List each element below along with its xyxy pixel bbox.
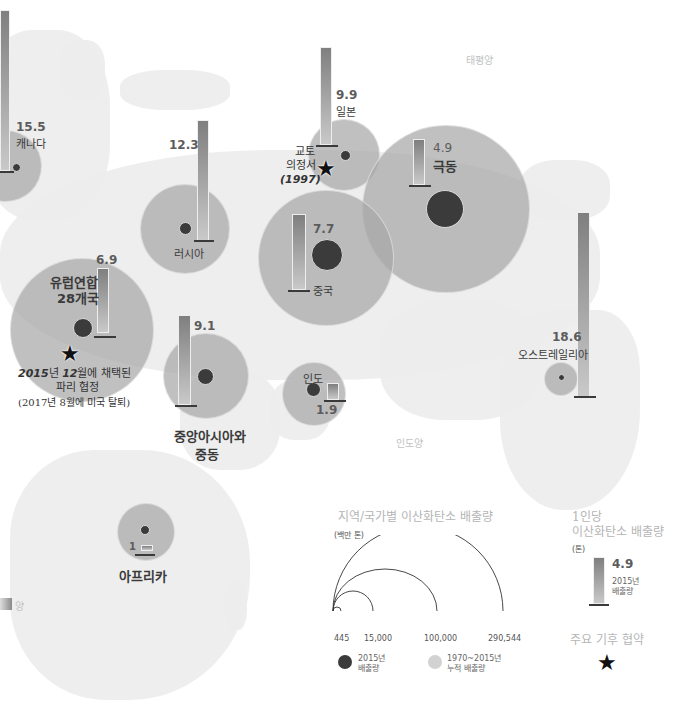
paris-mid1: 년	[49, 367, 63, 380]
china-bar-base	[288, 290, 310, 292]
russia-label: 러시아	[174, 245, 204, 261]
legend-dark-label-1: 2015년	[358, 654, 385, 664]
percap-unit: (톤)	[572, 543, 585, 554]
kyoto-label-line2: 의정서	[281, 159, 321, 173]
percap-legend-base	[589, 604, 609, 606]
far-east-bar-base	[409, 185, 431, 187]
india-per-capita-bar	[327, 383, 339, 400]
paris-note: (2017년 8월에 미국 탈퇴)	[18, 396, 130, 410]
land-madagascar	[225, 580, 247, 630]
legend-tick-290544: 290,544	[488, 634, 521, 643]
legend-circles-title: 지역/국가별 이산화탄소 배출량	[338, 510, 493, 525]
australia-per-capita-bar	[577, 212, 590, 397]
percap-title-line2: 이산화탄소 배출량	[572, 525, 664, 540]
cam-bar-base	[175, 405, 197, 407]
legend-dark-swatch	[338, 655, 352, 669]
legend-tick-100000: 100,000	[424, 634, 457, 643]
africa-2015-dot	[140, 525, 150, 535]
eu28-2015-dot	[73, 318, 93, 338]
land-greenland	[60, 40, 105, 100]
legend-tick-445: 445	[334, 634, 349, 643]
paris-label-line2: 파리 협정	[56, 381, 100, 395]
china-value: 7.7	[313, 222, 334, 236]
japan-label: 일본	[336, 103, 356, 119]
treaty-legend-star-icon: ★	[597, 652, 617, 674]
kyoto-year: (1997)	[280, 173, 320, 187]
africa-value: 1	[129, 541, 136, 552]
legend-light-swatch	[428, 655, 442, 669]
australia-label: 오스트레일리아	[518, 346, 588, 362]
eu28-value: 6.9	[96, 253, 117, 267]
eu28-label-line2: 28개국	[57, 288, 99, 307]
percap-legend-bar	[593, 557, 605, 604]
eu28-bar-base	[94, 336, 116, 338]
india-value: 1.9	[316, 403, 337, 417]
far-east-value: 4.9	[433, 141, 452, 155]
russia-2015-dot	[179, 222, 192, 235]
land-alaska-east	[520, 160, 610, 220]
japan-value: 9.9	[336, 88, 357, 102]
far-east-2015-dot	[426, 190, 464, 228]
edge-bar-left-bottom	[0, 598, 12, 610]
legend-dark-label-2: 배출량	[358, 664, 379, 674]
cam-label-line1: 중앙아시아와	[174, 426, 246, 445]
cam-label-line2: 중동	[195, 444, 219, 463]
treaty-legend-title: 주요 기후 협약	[570, 633, 644, 648]
china-per-capita-bar	[292, 214, 306, 290]
africa-label: 아프리카	[119, 566, 167, 585]
percap-legend-label-1: 2015년	[612, 577, 639, 587]
china-label: 중국	[313, 282, 333, 298]
canada-value: 15.5	[16, 120, 46, 134]
australia-2015-dot	[558, 374, 565, 381]
china-2015-dot	[311, 239, 343, 271]
legend-tick-15000: 15,000	[364, 634, 392, 643]
far-east-label: 극동	[433, 156, 457, 175]
cam-2015-dot	[197, 368, 214, 385]
paris-label-line1: 2015년 12월에 채택된	[18, 367, 131, 381]
indian-ocean-label: 인도양	[396, 435, 423, 450]
africa-per-capita-bar	[141, 545, 153, 551]
cam-per-capita-bar	[178, 315, 191, 405]
japan-per-capita-bar	[320, 47, 332, 145]
russia-value: 12.3	[169, 138, 199, 152]
percap-legend-value: 4.9	[612, 557, 633, 571]
australia-value: 18.6	[552, 330, 582, 344]
pacific-ocean-label: 태평양	[466, 52, 493, 67]
kyoto-star-icon: ★	[316, 158, 336, 180]
paris-month: 12	[62, 367, 77, 380]
legend-light-label-2: 누적 배출량	[447, 664, 485, 674]
japan-2015-dot	[340, 150, 351, 161]
russia-per-capita-bar	[197, 120, 209, 241]
paris-mid2: 월에 채택된	[77, 367, 131, 380]
canada-bar-base	[0, 171, 14, 173]
legend-arcs	[330, 535, 510, 615]
paris-year: 2015	[18, 367, 49, 380]
cam-value: 9.1	[194, 319, 215, 333]
percap-legend-label-2: 배출량	[612, 587, 633, 597]
land-arctic-islands	[120, 70, 230, 110]
russia-bar-base	[194, 240, 214, 242]
india-bar-base	[324, 400, 346, 402]
atlantic-ocean-label-partial: 양	[15, 598, 24, 613]
canada-per-capita-bar	[0, 10, 10, 171]
canada-label: 캐나다	[16, 135, 46, 151]
paris-star-icon: ★	[60, 343, 80, 365]
far-east-per-capita-bar	[413, 139, 425, 185]
legend-light-label-1: 1970~2015년	[447, 654, 501, 664]
africa-bar-base	[135, 554, 155, 556]
australia-bar-base	[574, 396, 596, 398]
percap-title-line1: 1인당	[572, 510, 602, 525]
india-label: 인도	[303, 370, 323, 386]
